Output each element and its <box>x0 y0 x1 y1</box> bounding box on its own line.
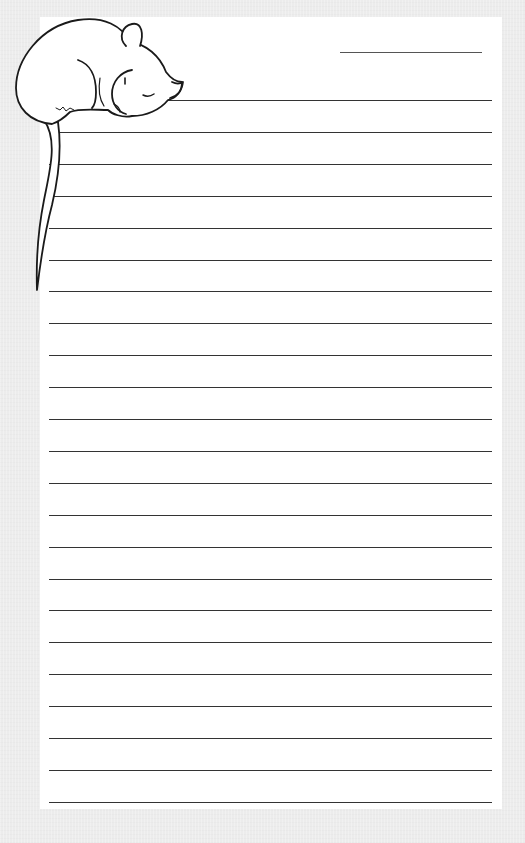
ruled-line <box>49 610 492 611</box>
ruled-line <box>49 323 492 324</box>
ruled-line <box>49 674 492 675</box>
name-line <box>340 52 482 53</box>
ruled-line <box>49 738 492 739</box>
ruled-line <box>49 515 492 516</box>
ruled-line <box>49 802 492 803</box>
ruled-line <box>49 642 492 643</box>
ruled-line <box>49 419 492 420</box>
ruled-line <box>49 706 492 707</box>
ruled-line <box>49 579 492 580</box>
ruled-line <box>49 387 492 388</box>
sleeping-mouse-icon <box>0 0 200 300</box>
ruled-line <box>49 547 492 548</box>
ruled-line <box>49 355 492 356</box>
ruled-line <box>49 770 492 771</box>
ruled-line <box>49 451 492 452</box>
ruled-line <box>49 483 492 484</box>
